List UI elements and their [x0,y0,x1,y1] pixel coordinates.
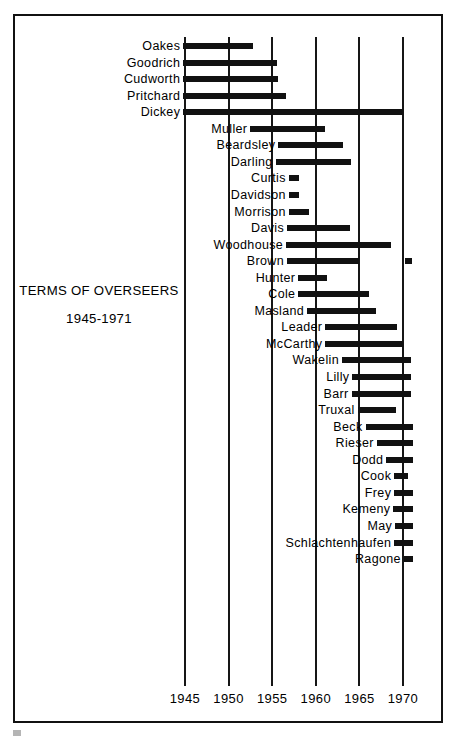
category-label-schlachtenhaufen: Schlachtenhaufen [0,536,391,549]
bar-davis [287,225,350,231]
bar-muller [250,126,325,132]
category-label-curtis: Curtis [0,172,286,185]
bar-brown-second [405,258,412,264]
bar-beck [366,424,414,430]
bar-cook [394,473,408,479]
x-tick-label-1955: 1955 [257,692,288,705]
bar-barr [352,391,411,397]
category-label-davis: Davis [0,222,284,235]
category-label-barr: Barr [0,387,349,400]
category-label-leader: Leader [0,321,322,334]
category-label-lilly: Lilly [0,371,349,384]
category-label-cook: Cook [0,470,391,483]
category-label-muller: Muller [0,123,247,136]
bar-dodd [386,457,413,463]
bar-oakes [183,43,253,49]
bar-schlachtenhaufen [394,540,413,546]
bar-truxal [358,407,396,413]
bar-goodrich [183,60,277,66]
bar-ragone [404,556,414,562]
category-label-ragone: Ragone [0,553,401,566]
bar-cudworth [183,76,278,82]
category-label-cudworth: Cudworth [0,73,180,86]
category-label-frey: Frey [0,487,391,500]
category-label-masland: Masland [0,305,304,318]
category-label-may: May [0,520,392,533]
bar-may [395,523,413,529]
bar-masland [307,308,376,314]
category-label-morrison: Morrison [0,205,286,218]
bar-davidson [289,192,299,198]
category-label-beck: Beck [0,420,363,433]
x-tick-label-1945: 1945 [170,692,201,705]
category-label-truxal: Truxal [0,404,355,417]
category-label-cole: Cole [0,288,295,301]
x-tick-label-1970: 1970 [388,692,419,705]
bar-brown [287,258,359,264]
category-label-hunter: Hunter [0,271,295,284]
bar-leader [325,324,397,330]
x-tick-label-1950: 1950 [213,692,244,705]
category-label-rieser: Rieser [0,437,374,450]
category-label-goodrich: Goodrich [0,56,180,69]
category-label-mccarthy: McCarthy [0,338,322,351]
category-label-darling: Darling [0,156,273,169]
category-label-brown: Brown [0,255,284,268]
bar-rieser [377,440,414,446]
bar-pritchard [183,93,286,99]
bar-kemeny [393,506,413,512]
scan-artifact [13,730,21,736]
bar-morrison [289,209,309,215]
category-label-wakelin: Wakelin [0,354,339,367]
bar-cole [298,291,369,297]
bar-darling [276,159,351,165]
bar-hunter [298,275,327,281]
x-tick-label-1960: 1960 [301,692,332,705]
category-label-davidson: Davidson [0,189,286,202]
x-tick-label-1965: 1965 [344,692,375,705]
bar-wakelin [342,357,411,363]
category-label-woodhouse: Woodhouse [0,238,283,251]
bar-mccarthy [325,341,403,347]
chart-figure: OakesGoodrichCudworthPritchardDickeyMull… [0,0,459,740]
bar-curtis [289,175,299,181]
category-label-oakes: Oakes [0,40,180,53]
category-label-dodd: Dodd [0,454,383,467]
category-label-kemeny: Kemeny [0,503,390,516]
category-label-dickey: Dickey [0,106,180,119]
bar-dickey [183,109,403,115]
bar-frey [394,490,413,496]
bar-lilly [352,374,410,380]
bar-beardsley [278,142,343,148]
bar-woodhouse [286,242,391,248]
category-label-beardsley: Beardsley [0,139,275,152]
category-label-pritchard: Pritchard [0,89,180,102]
